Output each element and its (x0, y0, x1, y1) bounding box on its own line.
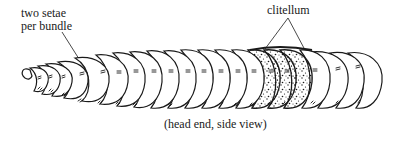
prostomium (22, 69, 32, 79)
earthworm-diagram: two setae per bundle clitellum (head end… (0, 0, 398, 145)
clitellum-leader-lines (265, 18, 305, 50)
worm-drawing (0, 0, 398, 145)
worm-body (22, 50, 382, 109)
